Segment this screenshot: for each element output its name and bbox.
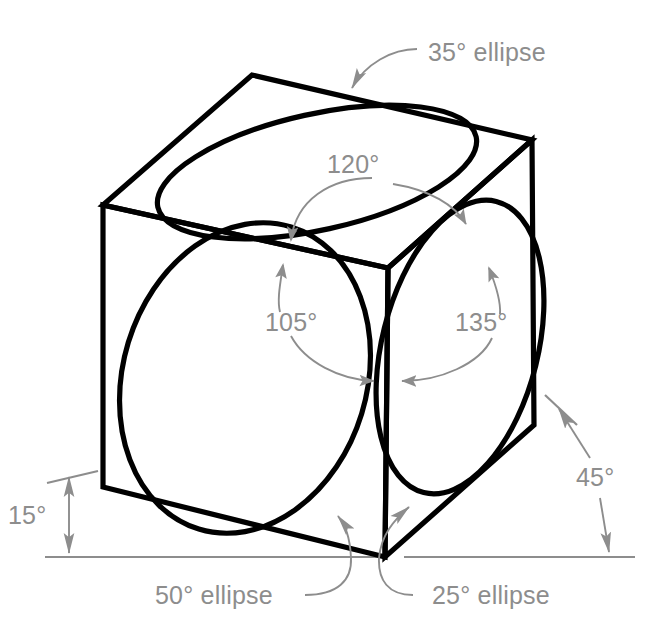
cube-left-face <box>103 205 388 557</box>
tilt-indicator-15 <box>47 471 98 553</box>
label-angle-135: 135° <box>455 310 508 335</box>
diagram-canvas: 35° ellipse 120° 105° 135° 15° 45° 50° e… <box>0 0 663 639</box>
label-right-ellipse: 25° ellipse <box>432 583 550 608</box>
label-angle-120: 120° <box>327 152 380 177</box>
left-face-ellipse <box>82 191 408 565</box>
leader-left-ellipse <box>305 516 351 595</box>
label-top-ellipse: 35° ellipse <box>428 40 546 65</box>
isometric-cube-figure <box>0 0 663 639</box>
leader-top-ellipse <box>352 49 417 88</box>
right-face-ellipse <box>348 183 572 512</box>
label-tilt-45: 45° <box>576 465 614 490</box>
label-angle-105: 105° <box>265 310 318 335</box>
label-left-ellipse: 50° ellipse <box>155 583 273 608</box>
label-tilt-15: 15° <box>8 503 46 528</box>
